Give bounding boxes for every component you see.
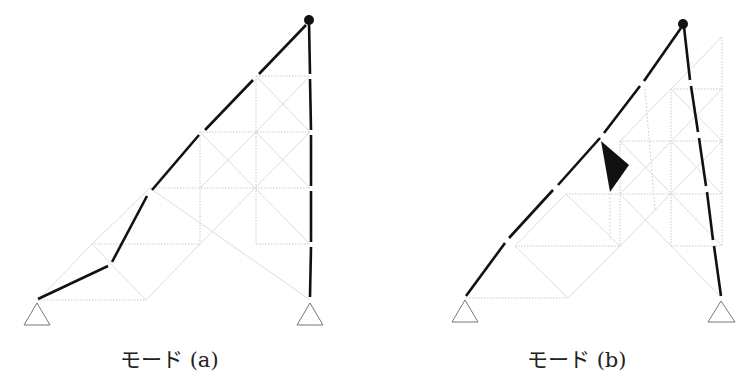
pin-support-icon	[452, 300, 478, 322]
rotating-element-icon	[601, 141, 629, 192]
diagram-b	[452, 19, 735, 322]
diagram-a	[24, 15, 323, 325]
grid-a	[38, 76, 310, 300]
mode-diagrams	[0, 0, 738, 390]
pin-support-icon	[24, 303, 50, 325]
hinge-node-icon	[304, 15, 314, 25]
grid-b	[466, 37, 722, 298]
members-b	[466, 27, 721, 296]
caption-mode-b: モード (b)	[527, 343, 627, 373]
caption-mode-a: モード (a)	[120, 343, 219, 373]
hinge-node-icon	[678, 19, 688, 29]
pin-support-icon	[297, 303, 323, 325]
pin-support-icon	[708, 301, 735, 322]
